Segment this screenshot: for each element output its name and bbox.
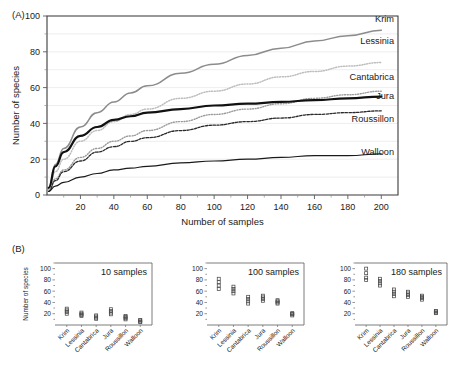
y-tick-label: 20 [30, 155, 40, 165]
x-tick-label: 100 [207, 202, 222, 212]
species-accumulation-figure: (A)0204060801002040608010012014016018020… [0, 0, 452, 375]
panel-a: (A)0204060801002040608010012014016018020… [10, 9, 398, 227]
sub-y-tick-label: 60 [344, 288, 352, 295]
curve-label-cantabrica: Cantabrica [350, 72, 395, 82]
panel-b-sub-2: 20406080100100 samplesKrimLessiniaCantab… [192, 263, 304, 354]
sub-y-axis-title: Number of species [22, 267, 30, 320]
y-tick-label: 0 [35, 190, 40, 200]
x-tick-label: 180 [340, 202, 355, 212]
sub-y-tick-label: 100 [340, 265, 351, 272]
y-tick-label: 80 [30, 47, 40, 57]
sub-y-tick-label: 60 [196, 288, 204, 295]
curve-jura [49, 97, 382, 188]
sub-y-tick-label: 80 [44, 276, 52, 283]
curve-label-lessinia: Lessinia [360, 36, 395, 46]
sub-y-tick-label: 20 [196, 310, 204, 317]
data-point [365, 267, 368, 270]
sub-panel-title: 10 samples [101, 267, 148, 277]
curve-label-jura: Jura [376, 91, 395, 101]
x-tick-label: 80 [176, 202, 186, 212]
sub-panel-title: 180 samples [391, 267, 443, 277]
data-point [217, 287, 220, 290]
x-axis-title: Number of samples [181, 216, 264, 227]
sub-y-tick-label: 40 [344, 299, 352, 306]
curve-label-krim: Krim [375, 14, 394, 24]
sub-y-tick-label: 40 [44, 299, 52, 306]
sub-y-tick-label: 80 [196, 276, 204, 283]
panel-b-sub-3: 20406080100180 samplesKrimLessiniaCantab… [340, 263, 447, 354]
sub-y-tick-label: 80 [344, 276, 352, 283]
data-point [217, 281, 220, 284]
y-tick-label: 60 [30, 83, 40, 93]
y-axis-title: Number of species [10, 66, 21, 145]
curve-label-walloon: Walloon [361, 147, 394, 157]
curve-label-roussillon: Roussillon [352, 114, 394, 124]
panel-b-tag: (B) [12, 243, 25, 254]
x-tick-label: 120 [240, 202, 255, 212]
sub-panel-title: 100 samples [248, 267, 300, 277]
sub-y-tick-label: 100 [40, 265, 51, 272]
panel-a-tag: (A) [12, 9, 25, 20]
curve-krim [49, 30, 382, 188]
sub-y-tick-label: 40 [196, 299, 204, 306]
y-tick-label: 40 [30, 119, 40, 129]
sub-y-tick-label: 20 [44, 310, 52, 317]
sub-y-tick-label: 20 [344, 310, 352, 317]
data-point [217, 277, 220, 280]
sub-y-tick-label: 100 [192, 265, 203, 272]
x-tick-label: 200 [374, 202, 389, 212]
panel-b-sub-1: 2040608010010 samplesNumber of speciesKr… [22, 263, 152, 354]
data-point [365, 272, 368, 275]
x-tick-label: 60 [142, 202, 152, 212]
data-point [217, 284, 220, 287]
x-tick-label: 40 [109, 202, 119, 212]
sub-y-tick-label: 60 [44, 288, 52, 295]
x-tick-label: 140 [273, 202, 288, 212]
curve-roussillon [49, 111, 382, 192]
y-tick-label: 100 [25, 11, 40, 21]
x-tick-label: 160 [307, 202, 322, 212]
figure-container: (A)0204060801002040608010012014016018020… [0, 0, 452, 375]
x-tick-label: 20 [75, 202, 85, 212]
